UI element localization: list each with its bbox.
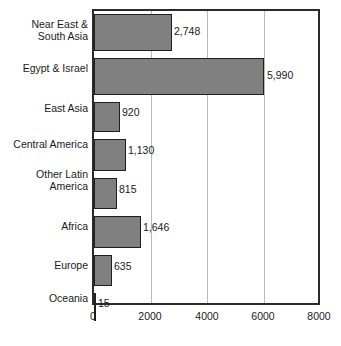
xtick-6000: 6000 xyxy=(243,310,283,322)
xtick-4000: 4000 xyxy=(187,310,227,322)
value-label-africa: 1,646 xyxy=(143,222,169,233)
bar-near-east-south-asia xyxy=(94,14,172,51)
value-label-other-latin-america: 815 xyxy=(119,184,137,195)
category-label-central-america: Central America xyxy=(0,138,88,150)
value-label-east-asia: 920 xyxy=(122,107,140,118)
category-label-east-asia: East Asia xyxy=(0,102,88,114)
category-label-europe: Europe xyxy=(0,259,88,271)
gridline-2000 xyxy=(151,11,152,303)
value-label-near-east-south-asia: 2,748 xyxy=(174,26,200,37)
bar-other-latin-america xyxy=(94,178,117,209)
value-label-europe: 635 xyxy=(114,261,132,272)
category-label-oceania: Oceania xyxy=(0,292,88,304)
value-label-central-america: 1,130 xyxy=(128,145,154,156)
category-label-near-east-south-asia: Near East & South Asia xyxy=(0,18,88,42)
value-label-oceania: 15 xyxy=(98,298,110,309)
xtick-0: 0 xyxy=(73,310,113,322)
value-label-egypt-israel: 5,990 xyxy=(267,70,293,81)
bar-egypt-israel xyxy=(94,58,264,95)
bar-chart: Near East & South Asia Egypt & Israel Ea… xyxy=(0,0,341,346)
bar-europe xyxy=(94,255,112,286)
category-label-other-latin-america: Other Latin America xyxy=(0,168,88,192)
gridline-4000 xyxy=(207,11,208,303)
xtick-2000: 2000 xyxy=(130,310,170,322)
category-label-africa: Africa xyxy=(0,220,88,232)
bar-africa xyxy=(94,216,141,248)
xtick-8000: 8000 xyxy=(299,310,339,322)
gridline-6000 xyxy=(264,11,265,303)
bar-central-america xyxy=(94,139,126,171)
category-label-egypt-israel: Egypt & Israel xyxy=(0,62,88,74)
bar-east-asia xyxy=(94,102,120,132)
